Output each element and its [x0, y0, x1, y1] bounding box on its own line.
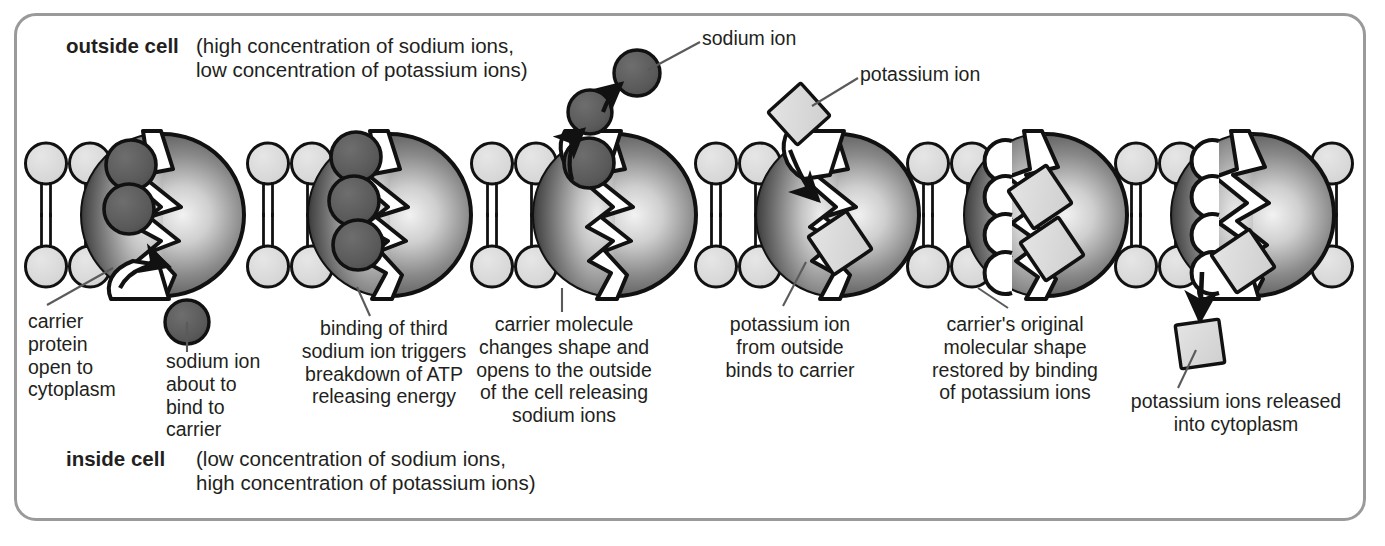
- arrow-potassium-release-stage6: [1200, 272, 1202, 320]
- phospholipid-top: [248, 143, 289, 217]
- carrier-protein-3: [534, 131, 696, 299]
- figure-root: outside cell (high concentration of sodi…: [0, 0, 1385, 546]
- bound-sodium-ion: [329, 176, 379, 226]
- phospholipid-bottom: [26, 213, 67, 287]
- phospholipid-bottom: [696, 213, 737, 287]
- free-potassium-ion-stage6: [1175, 319, 1225, 369]
- phospholipid-bottom: [472, 213, 513, 287]
- carrier-protein-2: [309, 131, 471, 299]
- phospholipid-top: [26, 143, 67, 217]
- outside-cell-label: outside cell: [66, 34, 179, 58]
- inside-cell-label: inside cell: [66, 447, 165, 471]
- leader-potassium-ion-key: [812, 78, 858, 106]
- phospholipid-top: [696, 143, 737, 217]
- caption-stage-1: carrier protein open to cytoplasm: [28, 310, 116, 401]
- outside-cell-detail-line2: low concentration of potassium ions): [196, 58, 528, 82]
- phospholipid-top: [472, 143, 513, 217]
- inside-cell-detail-line1: (low concentration of sodium ions,: [196, 447, 506, 471]
- caption-stage-6: potassium ions released into cytoplasm: [1118, 390, 1354, 436]
- caption-stage-4: potassium ion from outside binds to carr…: [690, 313, 890, 381]
- carrier-protein-4: [757, 131, 919, 299]
- carrier-protein-5: [965, 131, 1127, 299]
- bound-sodium-ion: [104, 184, 154, 234]
- bound-sodium-ion: [333, 220, 383, 270]
- outside-cell-detail-line1: (high concentration of sodium ions,: [196, 34, 514, 58]
- leader-sodium-ion-key: [648, 42, 700, 70]
- sodium-ion-key-label: sodium ion: [702, 27, 796, 50]
- potassium-ion-key-label: potassium ion: [860, 63, 980, 86]
- caption-stage-5: carrier's original molecular shape resto…: [906, 313, 1124, 404]
- carrier-protein-6: [1172, 131, 1334, 299]
- inside-cell-detail-line2: high concentration of potassium ions): [196, 471, 536, 495]
- caption-stage-3: carrier molecule changes shape and opens…: [452, 313, 676, 427]
- phospholipid-bottom: [248, 213, 289, 287]
- carrier-protein-1: [82, 131, 244, 299]
- caption-stage-1-secondary: sodium ion about to bind to carrier: [166, 350, 260, 441]
